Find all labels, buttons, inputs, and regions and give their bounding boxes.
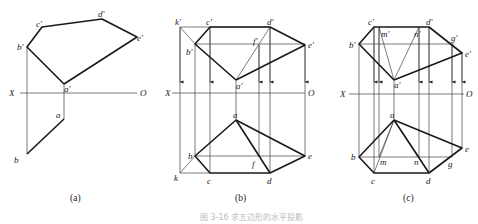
label-n-prime: n'	[414, 29, 422, 39]
panel-b: X O k' c' d' f' b' e' a' a b f e k c d (…	[164, 17, 315, 204]
label-e-prime: e'	[137, 33, 144, 43]
label-e: e	[308, 151, 312, 161]
label-d-prime: d'	[267, 17, 275, 27]
label-b-prime: b'	[186, 47, 194, 57]
front-view-pentagon	[27, 19, 137, 84]
label-c-prime: c'	[206, 17, 213, 27]
label-e: e	[465, 144, 469, 154]
label-b-prime: b'	[349, 40, 357, 50]
label-g: g	[448, 159, 453, 169]
front-view-pentagon	[359, 27, 462, 80]
front-view-pentagon	[195, 27, 305, 80]
label-d: d	[267, 176, 272, 186]
caption-b: (b)	[235, 193, 246, 204]
label-k: k	[174, 173, 179, 183]
label-a: a	[390, 110, 395, 120]
projection-diagram: X O b' c' d' e' a' a b (a)	[0, 0, 478, 224]
label-f: f	[252, 159, 256, 169]
label-c-prime: c'	[368, 17, 375, 27]
figure-caption: 图 3-16 求五边形的水平投影	[200, 212, 303, 222]
axis-label-o: O	[308, 88, 315, 98]
label-e-prime: e'	[465, 49, 472, 59]
axis-label-x: X	[8, 88, 15, 98]
top-view-ab	[27, 119, 64, 154]
label-a: a	[233, 110, 238, 120]
label-a: a	[56, 110, 61, 120]
label-a-prime: a'	[394, 80, 402, 90]
top-view-pentagon	[195, 120, 305, 173]
label-m: m	[380, 157, 387, 167]
label-f-prime: f'	[253, 36, 259, 46]
label-b: b	[351, 152, 356, 162]
label-a-prime: a'	[236, 81, 244, 91]
axis-label-o: O	[140, 88, 147, 98]
label-a-prime: a'	[64, 84, 72, 94]
label-b-prime: b'	[17, 42, 25, 52]
label-g-prime: g'	[451, 33, 459, 43]
label-k-prime: k'	[175, 17, 182, 27]
axis-label-o: O	[466, 89, 473, 99]
axis-label-x: X	[339, 89, 346, 99]
panel-c: X O c' m' n' d' g' b' e' a' a b m n g e …	[339, 17, 473, 204]
panel-a: X O b' c' d' e' a' a b (a)	[8, 9, 147, 204]
label-c: c	[207, 176, 211, 186]
top-view-pentagon	[359, 120, 462, 173]
label-d-prime: d'	[426, 17, 434, 27]
label-c: c	[371, 176, 375, 186]
label-b: b	[14, 155, 19, 165]
caption-c: (c)	[403, 193, 414, 204]
label-d-prime: d'	[98, 9, 106, 19]
label-n: n	[414, 157, 419, 167]
label-m-prime: m'	[381, 29, 390, 39]
helper-line	[180, 27, 195, 44]
axis-label-x: X	[164, 88, 171, 98]
caption-a: (a)	[70, 193, 81, 204]
label-b: b	[188, 151, 193, 161]
label-d: d	[426, 176, 431, 186]
label-e-prime: e'	[308, 40, 315, 50]
